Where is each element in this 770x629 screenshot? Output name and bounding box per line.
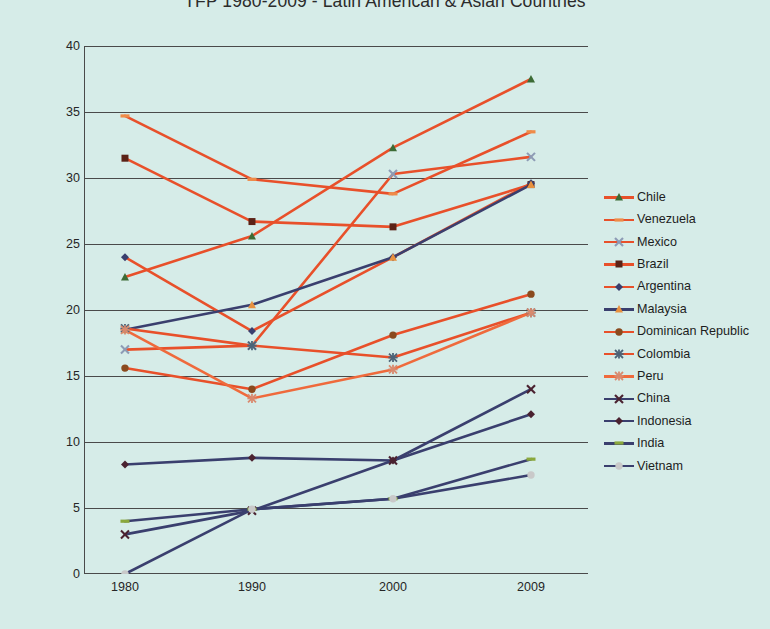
y-axis-tick-label: 35 [46, 105, 80, 119]
data-point-marker [120, 114, 129, 117]
data-point-marker [615, 283, 623, 291]
legend-item-label: India [637, 437, 664, 450]
legend-item-dominican-republic[interactable]: Dominican Republic [604, 320, 768, 342]
data-point-marker [526, 458, 535, 461]
legend-item-mexico[interactable]: Mexico [604, 231, 768, 253]
series-mexico [125, 157, 531, 350]
legend-marker-icon [604, 235, 634, 249]
legend-item-argentina[interactable]: Argentina [604, 276, 768, 298]
legend-item-china[interactable]: China [604, 388, 768, 410]
data-point-marker [527, 471, 534, 478]
legend-marker-icon [604, 280, 634, 294]
data-point-marker [615, 395, 623, 403]
x-axis-tick-label: 1980 [111, 580, 139, 594]
data-point-marker [247, 394, 256, 403]
legend-item-chile[interactable]: Chile [604, 186, 768, 208]
legend-key-icon [604, 280, 634, 294]
data-point-marker [248, 386, 255, 393]
plot-area [84, 46, 588, 574]
data-point-marker [248, 218, 255, 225]
data-point-marker [526, 308, 535, 317]
legend-marker-icon [604, 213, 634, 227]
series-line [125, 475, 531, 574]
data-point-marker [615, 218, 624, 221]
data-point-marker [121, 364, 128, 371]
legend-marker-icon [604, 459, 634, 473]
data-point-marker [247, 341, 256, 350]
series-markers [121, 155, 534, 231]
data-point-marker [615, 328, 622, 335]
chart-legend: ChileVenezuelaMexicoBrazilArgentinaMalay… [604, 186, 768, 477]
legend-item-indonesia[interactable]: Indonesia [604, 410, 768, 432]
data-point-marker [614, 349, 623, 358]
data-point-marker [388, 365, 397, 374]
legend-key-icon [604, 257, 634, 271]
data-point-marker [389, 495, 396, 502]
data-point-marker [121, 570, 128, 574]
data-point-marker [615, 417, 623, 425]
data-point-marker [120, 520, 129, 523]
data-point-marker [121, 155, 128, 162]
legend-marker-icon [604, 190, 634, 204]
legend-item-malaysia[interactable]: Malaysia [604, 298, 768, 320]
data-point-marker [527, 410, 535, 418]
series-markers [120, 114, 535, 195]
legend-key-icon [604, 392, 634, 406]
legend-item-peru[interactable]: Peru [604, 365, 768, 387]
y-axis-tick-label: 20 [46, 303, 80, 317]
legend-marker-icon [604, 414, 634, 428]
legend-item-label: Colombia [637, 348, 690, 361]
y-axis-tick-label: 30 [46, 171, 80, 185]
legend-marker-icon [604, 347, 634, 361]
series-line [125, 313, 531, 358]
series-markers [120, 308, 535, 403]
series-colombia [125, 313, 531, 358]
legend-item-brazil[interactable]: Brazil [604, 253, 768, 275]
x-axis-tick-label: 2009 [517, 580, 545, 594]
x-axis-tick-label: 1990 [238, 580, 266, 594]
series-line [125, 116, 531, 194]
data-point-marker [389, 331, 396, 338]
series-line [125, 459, 531, 521]
legend-key-icon [604, 436, 634, 450]
legend-key-icon [604, 369, 634, 383]
data-point-marker [615, 193, 623, 201]
legend-item-label: Venezuela [637, 213, 696, 226]
data-point-marker [615, 462, 622, 469]
y-axis-tick-label: 15 [46, 369, 80, 383]
chart-title: TFP 1980-2009 - Latin American & Asian C… [0, 0, 770, 12]
series-india [125, 459, 531, 521]
chart-page: TFP 1980-2009 - Latin American & Asian C… [0, 0, 770, 629]
legend-item-colombia[interactable]: Colombia [604, 343, 768, 365]
legend-item-venezuela[interactable]: Venezuela [604, 208, 768, 230]
legend-key-icon [604, 414, 634, 428]
legend-item-vietnam[interactable]: Vietnam [604, 455, 768, 477]
series-peru [125, 313, 531, 399]
y-axis: 0510152025303540 [36, 46, 80, 574]
data-point-marker [615, 238, 623, 246]
series-line [125, 313, 531, 399]
data-point-marker [527, 290, 534, 297]
y-axis-tick-label: 10 [46, 435, 80, 449]
legend-key-icon [604, 213, 634, 227]
legend-marker-icon [604, 392, 634, 406]
data-point-marker [389, 192, 398, 195]
legend-marker-icon [604, 302, 634, 316]
data-point-marker [615, 305, 623, 313]
legend-item-india[interactable]: India [604, 432, 768, 454]
x-axis: 1980199020002009 [84, 580, 588, 602]
legend-key-icon [604, 459, 634, 473]
series-vietnam [125, 475, 531, 574]
series-venezuela [125, 116, 531, 194]
legend-item-label: Argentina [637, 280, 691, 293]
series-line [125, 157, 531, 350]
data-point-marker [121, 460, 129, 468]
legend-item-label: Brazil [637, 258, 669, 271]
y-axis-tick-label: 5 [46, 501, 80, 515]
data-point-marker [616, 261, 623, 268]
legend-item-label: Vietnam [637, 460, 683, 473]
data-point-marker [388, 353, 397, 362]
legend-item-label: Peru [637, 370, 664, 383]
data-point-marker [527, 75, 535, 83]
legend-item-label: China [637, 392, 670, 405]
